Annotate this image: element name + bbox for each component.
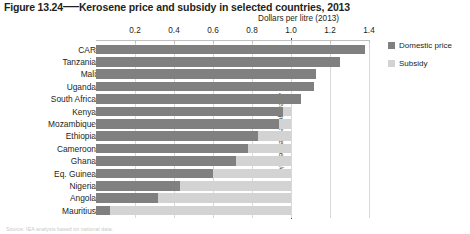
stacked-bar[interactable] [96, 82, 314, 92]
stacked-bar[interactable] [96, 193, 291, 203]
chart-row: Ghana [0, 155, 470, 167]
stacked-bar[interactable] [96, 69, 316, 79]
chart-row: Uganda [0, 81, 470, 93]
bar-segment-domestic-price[interactable] [96, 181, 180, 191]
chart-row: Nigeria [0, 180, 470, 192]
chart-row: Eq. Guinea [0, 168, 470, 180]
bar-segment-domestic-price[interactable] [96, 57, 340, 67]
x-axis-tick-label: 1.0 [285, 26, 296, 35]
bar-segment-domestic-price[interactable] [96, 156, 236, 166]
category-label: Kenya [72, 107, 96, 117]
category-label: South Africa [51, 94, 96, 104]
category-label: Uganda [67, 82, 96, 92]
bar-segment-subsidy[interactable] [213, 169, 291, 179]
legend-swatch-domestic-price-icon [388, 42, 395, 49]
stacked-bar[interactable] [96, 169, 291, 179]
legend-item-domestic-price[interactable]: Domestic price [388, 41, 468, 50]
stacked-bar[interactable] [96, 57, 340, 67]
bar-segment-domestic-price[interactable] [96, 82, 314, 92]
chart-row: Mauritius [0, 205, 470, 217]
bar-segment-domestic-price[interactable] [96, 119, 279, 129]
stacked-bar[interactable] [96, 94, 301, 104]
category-label: Nigeria [69, 181, 96, 191]
bar-segment-domestic-price[interactable] [96, 107, 283, 117]
chart-row: Kenya [0, 106, 470, 118]
category-label: Ethiopia [66, 131, 96, 141]
bar-segment-subsidy[interactable] [110, 206, 291, 216]
stacked-bar[interactable] [96, 107, 291, 117]
bar-segment-subsidy[interactable] [283, 107, 291, 117]
x-axis-tick-label: 0.6 [207, 26, 218, 35]
bar-segment-subsidy[interactable] [180, 181, 291, 191]
bar-segment-subsidy[interactable] [158, 193, 291, 203]
chart-row: Mozambique [0, 118, 470, 130]
bar-segment-subsidy[interactable] [248, 144, 291, 154]
legend-item-subsidy[interactable]: Subsidy [388, 59, 468, 68]
stacked-bar[interactable] [96, 45, 365, 55]
bar-segment-domestic-price[interactable] [96, 206, 110, 216]
category-label: Mozambique [48, 119, 96, 129]
legend-swatch-subsidy-icon [388, 60, 395, 67]
bar-segment-domestic-price[interactable] [96, 169, 213, 179]
chart-plot-area: Average reference price 0.20.40.60.81.01… [0, 0, 470, 234]
stacked-bar[interactable] [96, 144, 291, 154]
category-label: Tanzania [62, 57, 96, 67]
x-axis-line [96, 40, 369, 41]
x-axis-tick-label: 0.4 [168, 26, 179, 35]
bar-segment-domestic-price[interactable] [96, 144, 248, 154]
source-note: Source: IEA analysis based on national d… [6, 226, 113, 232]
bar-segment-domestic-price[interactable] [96, 131, 258, 141]
x-axis-tick-label: 1.4 [363, 26, 374, 35]
category-label: Angola [70, 193, 96, 203]
category-label: Ghana [71, 156, 96, 166]
stacked-bar[interactable] [96, 131, 291, 141]
stacked-bar[interactable] [96, 156, 291, 166]
x-axis-tick-label: 1.2 [324, 26, 335, 35]
legend-label-subsidy: Subsidy [399, 59, 427, 68]
category-label: Mauritius [62, 206, 96, 216]
x-axis-tick-label: 0.8 [246, 26, 257, 35]
bar-segment-domestic-price[interactable] [96, 45, 365, 55]
x-axis-tick-label: 0.2 [129, 26, 140, 35]
stacked-bar[interactable] [96, 206, 291, 216]
bar-segment-subsidy[interactable] [236, 156, 291, 166]
stacked-bar[interactable] [96, 119, 291, 129]
bar-segment-domestic-price[interactable] [96, 193, 158, 203]
bar-segment-subsidy[interactable] [258, 131, 291, 141]
chart-row: South Africa [0, 93, 470, 105]
chart-row: Ethiopia [0, 130, 470, 142]
stacked-bar[interactable] [96, 181, 291, 191]
chart-row: Angola [0, 192, 470, 204]
category-label: Eq. Guinea [54, 169, 96, 179]
chart-legend: Domestic price Subsidy [388, 41, 468, 77]
bar-segment-domestic-price[interactable] [96, 69, 316, 79]
legend-label-domestic-price: Domestic price [399, 41, 452, 50]
bar-segment-subsidy[interactable] [279, 119, 291, 129]
chart-row: Cameroon [0, 143, 470, 155]
bar-segment-domestic-price[interactable] [96, 94, 301, 104]
category-label: Cameroon [57, 144, 96, 154]
